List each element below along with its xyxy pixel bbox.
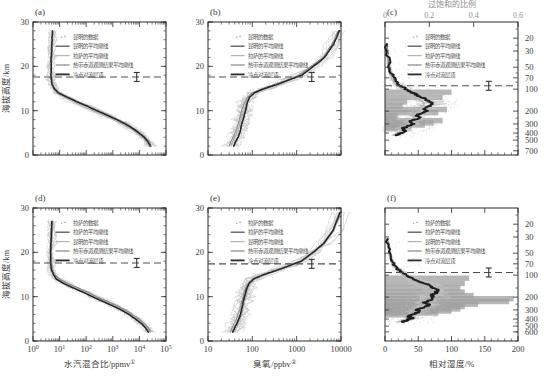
scatter-point [294,78,295,79]
scatter-point [401,312,402,313]
scatter-point [428,298,429,299]
scatter-point [50,41,51,42]
scatter-point [453,103,454,104]
scatter-point [388,320,389,321]
scatter-point [149,145,150,146]
scatter-point [415,121,416,122]
individual-sounding-profile [228,212,341,332]
scatter-point [151,146,152,147]
scatter-point [257,279,258,280]
scatter-point [49,220,50,221]
scatter-point [51,33,52,34]
scatter-point [53,37,54,38]
scatter-point [306,259,307,260]
scatter-point [414,81,415,82]
scatter-point [53,90,54,91]
scatter-point [450,104,451,105]
plot-area-d: 1001011021031041050102030拉萨的数据拉萨的平均廓线昆明的… [21,203,172,354]
scatter-point [248,100,249,101]
scatter-point [245,112,246,113]
scatter-point [148,137,149,138]
scatter-point [437,307,438,308]
scatter-point [248,93,249,94]
scatter-point [411,247,412,248]
scatter-point [405,124,406,125]
scatter-point [123,122,124,123]
scatter-point [241,321,242,322]
scatter-point [48,74,49,75]
scatter-point [305,68,306,69]
scatter-point [422,317,423,318]
scatter-point [242,98,243,99]
scatter-point [52,52,53,53]
scatter-point [248,287,249,288]
scatter-point [434,300,435,301]
scatter-point [89,295,90,296]
scatter-point [48,241,49,242]
scatter-point [398,264,399,265]
scatter-point [391,306,392,307]
scatter-point [133,318,134,319]
scatter-point [409,82,410,83]
scatter-point [271,268,272,269]
scatter-point [333,222,334,223]
scatter-point [244,130,245,131]
scatter-point [116,119,117,120]
scatter-point [260,90,261,91]
scatter-point [246,284,247,285]
scatter-point [321,65,322,66]
scatter-point [54,270,55,271]
scatter-point [246,307,247,308]
scatter-point [246,105,247,106]
scatter-point [52,55,53,56]
scatter-point [392,81,393,82]
scatter-point [48,230,49,231]
scatter-point [54,266,55,267]
scatter-point [238,330,239,331]
scatter-point [422,284,423,285]
scatter-point [127,314,128,315]
scatter-point [54,274,55,275]
scatter-point [241,287,242,288]
scatter-point [326,244,327,245]
scatter-point [51,231,52,232]
scatter-point [406,297,407,298]
scatter-point [114,309,115,310]
scatter-point [49,254,50,255]
scatter-point [86,292,87,293]
scatter-point [54,270,55,271]
scatter-point [49,61,50,62]
scatter-point [250,94,251,95]
scatter-point [395,129,396,130]
scatter-point [116,120,117,121]
scatter-point [54,83,55,84]
scatter-point [121,311,122,312]
scatter-point [421,110,422,111]
scatter-point [273,271,274,272]
scatter-point [117,306,118,307]
scatter-point [124,313,125,314]
scatter-point [234,317,235,318]
legend-label: 昆明的平均廓线 [425,42,461,50]
scatter-point [436,308,437,309]
scatter-point [127,124,128,125]
scatter-point [48,239,49,240]
scatter-point [52,92,53,93]
scatter-point [247,118,248,119]
scatter-point [261,278,262,279]
scatter-point [429,117,430,118]
scatter-point [140,134,141,135]
scatter-point [136,322,137,323]
scatter-point [433,90,434,91]
mean-profile-curve [51,31,151,146]
scatter-point [146,144,147,145]
scatter-point [149,328,150,329]
scatter-point [135,321,136,322]
scatter-point [245,104,246,105]
scatter-point [412,307,413,308]
scatter-point [244,313,245,314]
scatter-point [89,105,90,106]
scatter-point [54,276,55,277]
scatter-point [250,109,251,110]
scatter-point [48,54,49,55]
